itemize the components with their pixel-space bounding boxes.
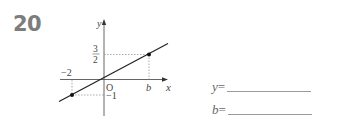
equals-sign: = [219,102,226,118]
y-axis-label: y [96,18,102,29]
answer-line-y: y= [212,79,311,95]
answer-blank-y[interactable] [227,91,311,92]
x-axis-label: x [165,81,171,93]
tick-label-neg2: −2 [61,67,72,78]
point-b-3-2 [147,53,151,57]
point-neg2-neg1 [70,93,74,97]
equals-sign: = [218,79,225,95]
answer-line-b: b= [212,102,312,118]
y-axis-arrow-icon [102,19,106,25]
fraction-numerator: 3 [93,44,98,54]
tick-label-b: b [146,82,151,93]
tick-label-neg1: −1 [106,90,117,101]
answer-blank-b[interactable] [228,114,312,115]
fraction-denominator: 2 [93,55,98,65]
